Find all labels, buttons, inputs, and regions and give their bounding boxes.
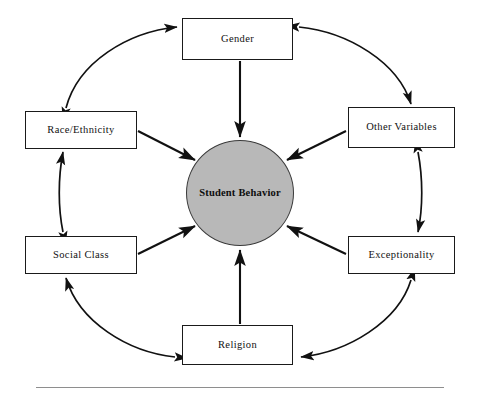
node-race-ethnicity-label: Race/Ethnicity (47, 125, 114, 136)
node-religion[interactable]: Religion (182, 325, 293, 365)
connector-race-ethnicity-to-gender (66, 27, 177, 108)
node-race-ethnicity[interactable]: Race/Ethnicity (25, 111, 137, 149)
connector-race-ethnicity-to-center (138, 131, 195, 160)
node-other-variables-label: Other Variables (366, 122, 437, 133)
center-node-student-behavior[interactable]: Student Behavior (186, 140, 294, 246)
footer-divider-rule (36, 387, 444, 388)
node-other-variables[interactable]: Other Variables (348, 107, 455, 148)
node-social-class[interactable]: Social Class (25, 236, 137, 274)
connector-exceptionality-to-center (287, 226, 346, 254)
node-gender[interactable]: Gender (182, 18, 293, 60)
diagram-figure: Gender Other Variables Exceptionality Re… (0, 0, 479, 396)
connector-social-class-to-race-ethnicity (59, 152, 63, 232)
node-exceptionality[interactable]: Exceptionality (348, 236, 455, 274)
connector-social-class-to-center (138, 226, 195, 254)
connector-religion-to-social-class (66, 278, 175, 357)
connector-gender-to-other-variables (299, 27, 411, 104)
node-exceptionality-label: Exceptionality (368, 250, 434, 261)
node-religion-label: Religion (218, 340, 257, 351)
node-social-class-label: Social Class (53, 250, 109, 261)
connector-other-variables-to-center (287, 131, 346, 160)
connector-exceptionality-to-religion (301, 280, 411, 357)
node-gender-label: Gender (221, 34, 254, 45)
center-node-label: Student Behavior (199, 188, 281, 199)
connector-other-variables-to-exceptionality (418, 152, 422, 232)
